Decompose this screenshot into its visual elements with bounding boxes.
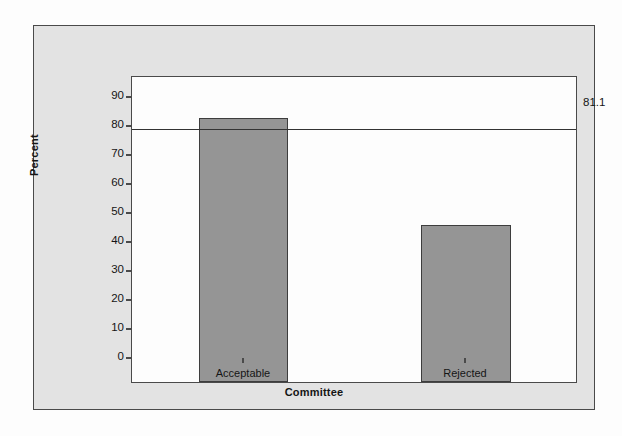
- y-tick-label: 70: [111, 147, 124, 159]
- bar-rejected[interactable]: [421, 225, 511, 382]
- y-tick-label: 90: [111, 89, 124, 101]
- y-tick-label: 10: [111, 321, 124, 333]
- x-category-label-acceptable: Acceptable: [216, 367, 270, 379]
- y-tick-label: 50: [111, 205, 124, 217]
- y-tick-label: 60: [111, 176, 124, 188]
- x-axis-title: Committee: [34, 386, 594, 398]
- x-tick-mark-rejected: [464, 358, 466, 363]
- y-tick-label: 30: [111, 263, 124, 275]
- bar-acceptable[interactable]: [199, 118, 288, 382]
- reference-line-81: [132, 129, 576, 130]
- plot-area: [131, 76, 577, 383]
- y-tick-label: 0: [118, 350, 124, 362]
- y-tick-label: 80: [111, 118, 124, 130]
- reference-line-label: 81.1: [583, 96, 605, 108]
- x-tick-mark-acceptable: [242, 358, 244, 363]
- x-category-label-rejected: Rejected: [443, 367, 486, 379]
- y-tick-label: 40: [111, 234, 124, 246]
- y-axis: 0 10 20 30 40 50: [34, 26, 131, 436]
- y-tick-label: 20: [111, 292, 124, 304]
- figure-panel: Percent 0 10 20 30 40: [33, 25, 595, 410]
- chart-figure: Percent 0 10 20 30 40: [0, 0, 622, 436]
